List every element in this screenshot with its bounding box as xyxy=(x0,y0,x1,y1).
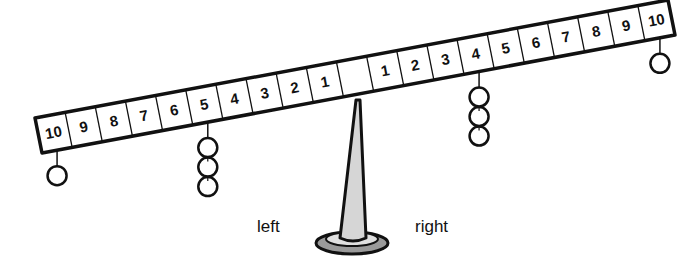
weight-circle xyxy=(198,138,217,157)
weight-stack-right-10 xyxy=(650,38,669,73)
right-label: right xyxy=(415,217,448,237)
weight-stack-right-4 xyxy=(470,72,489,146)
weight-stack-left-10 xyxy=(48,150,67,185)
weight-circle xyxy=(650,54,669,73)
beam-position-label: 10 xyxy=(44,122,64,142)
weight-circle xyxy=(48,166,67,185)
fulcrum xyxy=(316,100,388,254)
balance-diagram: 1098765432112345678910 xyxy=(0,0,696,257)
weight-stack-left-5 xyxy=(198,122,217,196)
weight-circle xyxy=(470,88,489,107)
left-label: left xyxy=(257,217,280,237)
beam-position-label: 10 xyxy=(647,10,667,30)
